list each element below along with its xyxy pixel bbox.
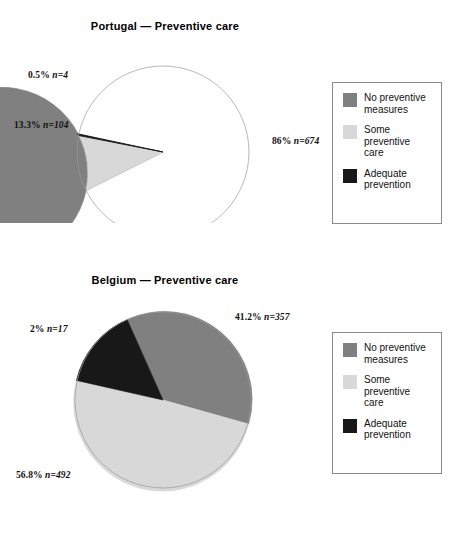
belgium-chart-panel: Belgium — Preventive care 2% n=17 41.2% … xyxy=(0,262,468,535)
portugal-label-adequate-prevention: 0.5% n=4 xyxy=(28,70,68,80)
legend-item-some-preventive-care: Some preventive care xyxy=(343,374,433,409)
legend-label-adequate-prevention: Adequate prevention xyxy=(364,418,411,441)
legend-label-adequate-prevention: Adequate prevention xyxy=(364,168,411,191)
legend-item-some-preventive-care: Some preventive care xyxy=(343,124,433,159)
legend-label-some-preventive-care: Some preventive care xyxy=(364,124,410,159)
portugal-chart-panel: Portugal — Preventive care 0.5% n=4 13.3… xyxy=(0,0,468,262)
portugal-legend: No preventive measures Some preventive c… xyxy=(332,82,442,224)
legend-swatch-some-preventive-care-icon xyxy=(343,125,357,139)
legend-label-no-preventive-measures: No preventive measures xyxy=(364,92,426,115)
belgium-label-some-preventive-care: 56.8% n=492 xyxy=(16,470,71,480)
legend-item-no-preventive-measures: No preventive measures xyxy=(343,92,433,115)
legend-item-no-preventive-measures: No preventive measures xyxy=(343,342,433,365)
legend-label-some-preventive-care: Some preventive care xyxy=(364,374,410,409)
legend-swatch-adequate-prevention-icon xyxy=(343,419,357,433)
legend-swatch-adequate-prevention-icon xyxy=(343,169,357,183)
legend-item-adequate-prevention: Adequate prevention xyxy=(343,168,433,191)
legend-item-adequate-prevention: Adequate prevention xyxy=(343,418,433,441)
belgium-label-adequate-prevention: 2% n=17 xyxy=(30,324,68,334)
legend-label-no-preventive-measures: No preventive measures xyxy=(364,342,426,365)
preventive-care-figure: Portugal — Preventive care 0.5% n=4 13.3… xyxy=(0,0,468,535)
legend-swatch-some-preventive-care-icon xyxy=(343,375,357,389)
belgium-legend: No preventive measures Some preventive c… xyxy=(332,332,442,474)
portugal-label-some-preventive-care: 13.3% n=104 xyxy=(14,120,69,130)
legend-swatch-no-preventive-measures-icon xyxy=(343,93,357,107)
portugal-chart-title: Portugal — Preventive care xyxy=(0,20,330,32)
portugal-label-no-preventive-measures: 86% n=674 xyxy=(272,136,319,146)
belgium-label-no-preventive-measures: 41.2% n=357 xyxy=(235,312,290,322)
legend-swatch-no-preventive-measures-icon xyxy=(343,343,357,357)
portugal-pie-chart xyxy=(0,38,330,223)
belgium-chart-title: Belgium — Preventive care xyxy=(0,274,330,286)
